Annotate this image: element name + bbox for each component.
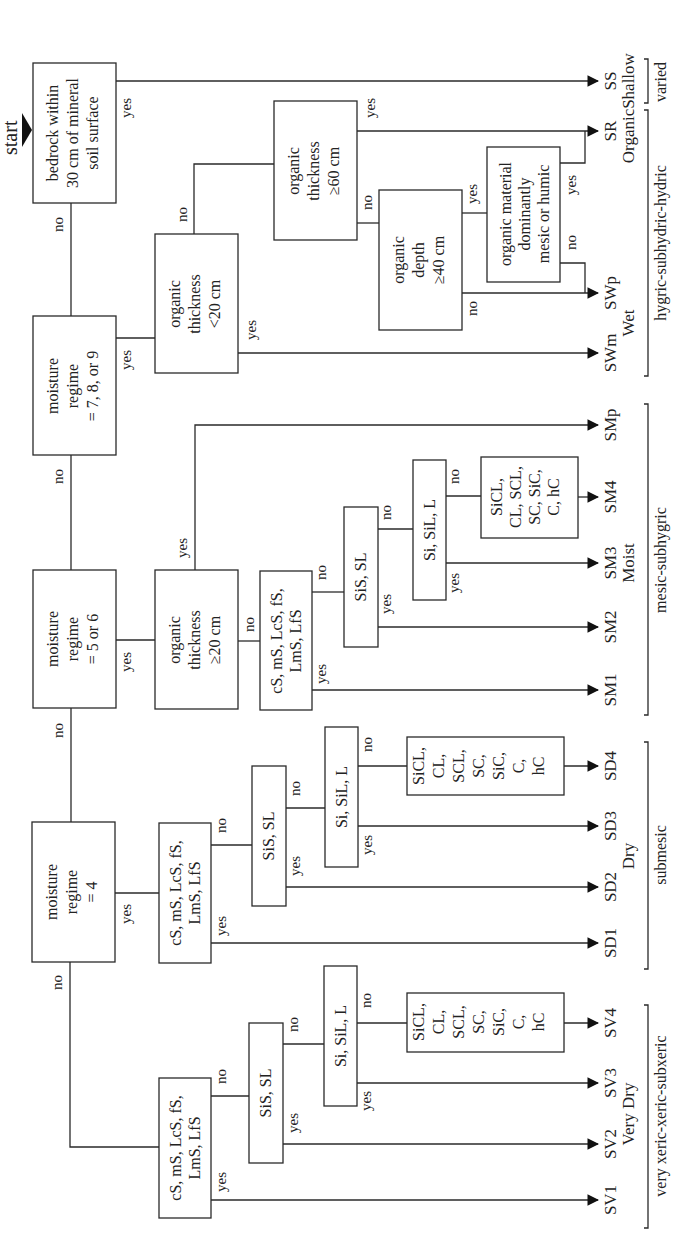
- label-no: no: [213, 1069, 229, 1084]
- svg-text:regime: regime: [64, 364, 82, 408]
- svg-text:<20 cm: <20 cm: [206, 279, 223, 328]
- svg-text:moisture: moisture: [44, 611, 61, 667]
- label-no: no: [49, 975, 65, 990]
- class-organic: Organic: [619, 108, 638, 163]
- svg-text:thickness: thickness: [305, 141, 322, 201]
- group-brackets: varied hygric-subhydric-hydric mesic-sub…: [644, 59, 670, 1228]
- svg-text:organic: organic: [166, 280, 184, 328]
- svg-text:cS, mS, LcS, fS,: cS, mS, LcS, fS,: [167, 840, 184, 945]
- class-moist: Moist: [619, 543, 638, 583]
- group-xeric: very xeric-xeric-subxeric: [652, 1035, 670, 1196]
- label-no: no: [446, 469, 462, 484]
- label-no: no: [563, 235, 579, 250]
- outcome-codes: SS SR SWp SWm SMp SM4 SM3 SM2 SM1 SD4 SD…: [601, 72, 620, 1216]
- svg-text:bedrock within: bedrock within: [44, 85, 61, 181]
- outcome-SM4: SM4: [601, 480, 620, 514]
- svg-text:dominantly: dominantly: [516, 178, 534, 251]
- start-arrow-icon: [22, 113, 32, 147]
- svg-text:SCL,: SCL,: [450, 1005, 467, 1038]
- svg-text:mesic or humic: mesic or humic: [535, 165, 552, 264]
- label-no: no: [50, 217, 66, 232]
- label-no: no: [378, 505, 394, 520]
- group-varied: varied: [652, 62, 669, 102]
- svg-text:= 4: = 4: [83, 881, 100, 902]
- svg-text:SC, SiC,: SC, SiC,: [526, 469, 543, 525]
- svg-text:cS, mS, LcS, fS,: cS, mS, LcS, fS,: [167, 1095, 184, 1200]
- label-yes: yes: [313, 664, 329, 684]
- group-mesic: mesic-subhygric: [652, 507, 670, 613]
- svg-text:SC,: SC,: [470, 1010, 487, 1034]
- label-yes: yes: [118, 652, 134, 672]
- soil-moisture-flowchart: start bedrock within 30 cm of mineral so…: [0, 0, 688, 1239]
- svg-text:organic: organic: [285, 147, 303, 195]
- svg-text:SC,: SC,: [470, 754, 487, 778]
- edge-material-yes: [560, 131, 585, 163]
- label-no: no: [285, 1017, 301, 1032]
- label-no: no: [358, 993, 374, 1008]
- label-no: no: [313, 565, 329, 580]
- svg-text:organic: organic: [166, 616, 184, 664]
- label-yes: yes: [118, 98, 134, 118]
- svg-text:thickness: thickness: [186, 274, 203, 334]
- svg-text:CL, SCL,: CL, SCL,: [507, 466, 524, 528]
- outcome-SS: SS: [601, 72, 620, 91]
- outcome-SV4: SV4: [601, 1007, 620, 1038]
- label-no: no: [241, 617, 257, 632]
- edge-moisture4-no: [70, 962, 159, 1147]
- svg-text:≥60 cm: ≥60 cm: [325, 146, 342, 195]
- label-yes: yes: [446, 573, 462, 593]
- class-very-dry: Very Dry: [619, 1082, 638, 1145]
- edge-lt20-no: [194, 164, 274, 234]
- class-wet: Wet: [619, 309, 638, 336]
- bracket-xeric: [644, 1005, 648, 1228]
- outcome-SM2: SM2: [601, 610, 620, 643]
- svg-text:LmS, LfS: LmS, LfS: [186, 1116, 203, 1179]
- class-shallow: Shallow: [619, 52, 638, 108]
- label-no: no: [50, 723, 66, 738]
- outcome-SR: SR: [601, 120, 620, 141]
- svg-text:CL,: CL,: [430, 754, 447, 778]
- decision-texture-sis-moist-text: SiS, SL: [352, 553, 369, 602]
- outcome-SD4: SD4: [601, 750, 620, 781]
- outcome-SWp: SWp: [601, 276, 620, 310]
- svg-text:LmS, LfS: LmS, LfS: [186, 861, 203, 924]
- svg-text:C,: C,: [510, 1015, 527, 1030]
- svg-text:C, hC: C, hC: [545, 478, 562, 515]
- label-yes: yes: [118, 904, 134, 924]
- svg-text:cS, mS, LcS, fS,: cS, mS, LcS, fS,: [268, 588, 285, 693]
- label-yes: yes: [118, 350, 134, 370]
- svg-text:moisture: moisture: [43, 864, 60, 920]
- start-indicator: start: [0, 113, 32, 155]
- svg-text:SiCL,: SiCL,: [488, 478, 505, 516]
- label-no: no: [359, 195, 375, 210]
- svg-text:soil surface: soil surface: [84, 96, 101, 169]
- svg-text:= 7, 8, or 9: = 7, 8, or 9: [84, 351, 101, 421]
- outcome-SD3: SD3: [601, 811, 620, 841]
- decision-organic-lt20-text: organic thickness <20 cm: [166, 274, 223, 334]
- label-yes: yes: [378, 594, 394, 614]
- edge-material-no: [560, 263, 585, 293]
- svg-text:≥20 cm: ≥20 cm: [206, 615, 223, 664]
- outcome-SMp: SMp: [601, 408, 620, 441]
- svg-text:C,: C,: [510, 759, 527, 774]
- label-yes: yes: [362, 98, 378, 118]
- decision-moisture-56-text: moisture regime = 5 or 6: [44, 611, 101, 667]
- decision-organic-depth40-text: organic depth ≥40 cm: [390, 235, 447, 284]
- svg-text:organic: organic: [390, 236, 408, 284]
- decision-organic-ge60-text: organic thickness ≥60 cm: [285, 141, 342, 201]
- svg-text:SCL,: SCL,: [450, 749, 467, 782]
- bracket-submesic: [644, 742, 648, 969]
- svg-text:regime: regime: [63, 870, 81, 914]
- outcome-SM1: SM1: [601, 673, 620, 706]
- svg-text:organic material: organic material: [497, 161, 515, 266]
- svg-text:SiC,: SiC,: [490, 1008, 507, 1036]
- decision-texture-si-verydry-text: Si, SiL, L: [332, 1005, 349, 1067]
- label-yes: yes: [359, 835, 375, 855]
- label-yes: yes: [287, 856, 303, 876]
- label-no: no: [213, 818, 229, 833]
- label-yes: yes: [243, 320, 259, 340]
- label-no: no: [50, 469, 66, 484]
- decision-texture-si-dry-text: Si, SiL, L: [333, 766, 350, 828]
- decision-texture-sis-verydry-text: SiS, SL: [257, 1069, 274, 1118]
- svg-text:CL,: CL,: [430, 1010, 447, 1034]
